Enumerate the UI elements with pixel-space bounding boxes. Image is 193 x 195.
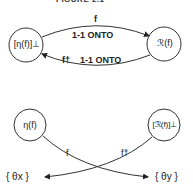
node-orthogonal-complement-nullspace: [η(f)]⊥ bbox=[9, 39, 45, 49]
label-forward-property: 1-1 ONTO bbox=[72, 30, 113, 40]
label-inverse-property: 1-1 ONTO bbox=[80, 55, 121, 65]
label-inverse-map: f† bbox=[62, 55, 70, 65]
label-forward-map: f bbox=[94, 14, 97, 24]
node-nullspace: η(f) bbox=[14, 120, 46, 130]
target-theta-y: { θy } bbox=[155, 171, 178, 182]
target-theta-x: { θx } bbox=[6, 171, 29, 182]
node-range-complement: [ℛ(f)]⊥ bbox=[144, 120, 186, 129]
label-map-f: f bbox=[66, 148, 69, 158]
node-range: ℛ(f) bbox=[148, 38, 182, 48]
label-map-f-dagger: f† bbox=[121, 148, 129, 158]
